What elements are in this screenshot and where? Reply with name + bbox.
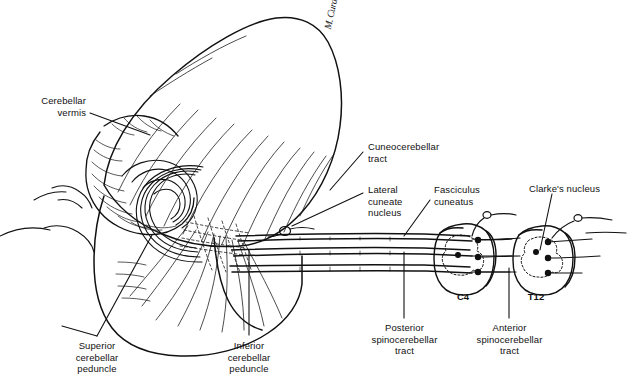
label-cerebellar-vermis: Cerebellar vermis <box>8 95 86 118</box>
cerebellum-hemisphere <box>104 17 342 246</box>
label-lateral-cuneate-nucleus: Lateral cuneate nucleus <box>368 184 428 219</box>
spinal-cord-segment-t12 <box>513 226 575 295</box>
lateral-cuneate-nucleus-neuron <box>268 227 314 238</box>
label-cuneocerebellar-tract: Cuneocerebellar tract <box>368 141 463 164</box>
anatomy-figure: Cerebellar vermis Cuneocerebellar tract … <box>0 0 640 392</box>
label-superior-cerebellar-peduncle: Superior cerebellar peduncle <box>62 340 132 375</box>
label-fasciculus-cuneatus: Fasciculus cuneatus <box>434 184 504 207</box>
medulla-brainstem <box>94 196 302 356</box>
label-inferior-cerebellar-peduncle: Inferior cerebellar peduncle <box>214 340 284 375</box>
spinocerebellar-tract-bundle <box>230 234 472 273</box>
c4-neurons-and-roots <box>456 212 520 275</box>
surrounding-tissue-outline <box>0 186 94 252</box>
decussating-fibers <box>180 216 252 272</box>
label-anterior-spinocerebellar-tract: Anterior spinocerebellar tract <box>462 322 557 357</box>
vermis-folia <box>92 116 176 230</box>
label-segment-t12: T12 <box>522 291 550 302</box>
label-segment-c4: C4 <box>449 291 477 302</box>
label-posterior-spinocerebellar-tract: Posterior spinocerebellar tract <box>357 322 452 357</box>
medulla-surface-fibers <box>116 262 150 301</box>
t12-neurons-and-roots <box>534 215 626 276</box>
label-clarkes-nucleus: Clarke's nucleus <box>529 183 624 195</box>
